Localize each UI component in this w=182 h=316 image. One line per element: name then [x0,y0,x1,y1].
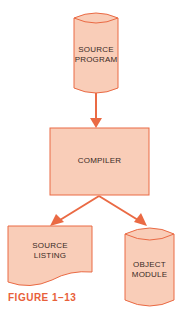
label-line: PROGRAM [74,55,118,65]
source-listing-label: SOURCE LISTING [8,241,92,261]
arrow-compiler-to-listing [50,196,99,226]
compiler-label: COMPILER [50,156,149,166]
object-module-label: OBJECT MODULE [125,260,174,280]
label-line: SOURCE [8,241,92,251]
label-line: LISTING [8,251,92,261]
arrow-program-to-compiler [90,93,102,128]
label-line: SOURCE [74,45,118,55]
source-program-label: SOURCE PROGRAM [74,45,118,65]
figure-caption: FIGURE 1–13 [8,292,76,303]
label-line: MODULE [125,270,174,280]
label-line: COMPILER [50,156,149,166]
label-line: OBJECT [125,260,174,270]
arrow-compiler-to-module [99,196,147,226]
